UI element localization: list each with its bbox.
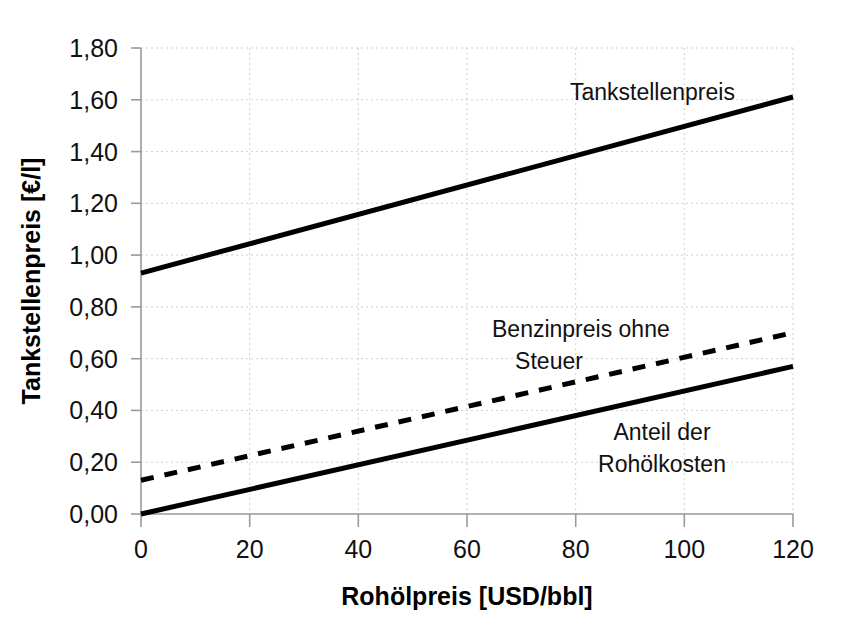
y-tick-label: 1,60 (69, 86, 118, 114)
chart-page: 1,80 1,60 1,40 1,20 1,00 0,80 0,60 0,40 … (0, 0, 844, 637)
x-tick-label: 0 (134, 535, 148, 563)
x-tick-label: 40 (344, 535, 372, 563)
y-tick-label: 0,40 (69, 396, 118, 424)
y-tick-label: 0,80 (69, 293, 118, 321)
y-tick-label: 0,00 (69, 500, 118, 528)
y-tick-label: 0,60 (69, 345, 118, 373)
x-tick-label: 20 (236, 535, 264, 563)
y-tick-label: 1,80 (69, 34, 118, 62)
x-tick-label: 80 (562, 535, 590, 563)
series-annotation-anteil-line1: Anteil der (613, 419, 711, 445)
series-annotation-benzinpreis-line2: Steuer (515, 348, 583, 374)
x-tick-label: 60 (453, 535, 481, 563)
x-axis-title: Rohölpreis [USD/bbl] (341, 582, 592, 610)
y-tick-label: 0,20 (69, 448, 118, 476)
y-axis-title: Tankstellenpreis [€/l] (17, 158, 45, 405)
y-tick-label: 1,20 (69, 189, 118, 217)
series-annotation-tankstellenpreis: Tankstellenpreis (570, 79, 735, 105)
x-tick-label: 100 (663, 535, 705, 563)
y-tick-label: 1,40 (69, 138, 118, 166)
series-annotation-anteil-line2: Rohölkosten (598, 451, 726, 477)
line-chart: 1,80 1,60 1,40 1,20 1,00 0,80 0,60 0,40 … (0, 0, 844, 637)
x-tick-label: 120 (772, 535, 814, 563)
series-annotation-benzinpreis-line1: Benzinpreis ohne (492, 316, 670, 342)
y-tick-label: 1,00 (69, 241, 118, 269)
